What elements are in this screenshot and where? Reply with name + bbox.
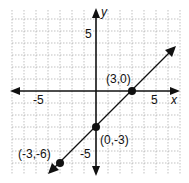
- x-tick-5: 5: [151, 93, 158, 107]
- line-y-equals-x-minus-3: [48, 46, 176, 174]
- graph-svg: y x -5 5 5 -5 (3,0) (0,-3) (-3,-6): [0, 0, 189, 183]
- coordinate-plane: y x -5 5 5 -5 (3,0) (0,-3) (-3,-6): [0, 0, 189, 183]
- point-neg3-neg6: [56, 159, 64, 167]
- y-tick-5: 5: [85, 27, 92, 41]
- y-axis-label: y: [100, 5, 108, 19]
- y-tick-neg5: -5: [80, 147, 91, 161]
- point-label-0-neg3: (0,-3): [100, 133, 129, 147]
- point-label-neg3-neg6: (-3,-6): [18, 147, 51, 161]
- x-tick-neg5: -5: [33, 93, 44, 107]
- point-3-0: [128, 87, 136, 95]
- point-0-neg3: [92, 123, 100, 131]
- x-axis-label: x: [170, 93, 178, 107]
- point-label-3-0: (3,0): [106, 72, 131, 86]
